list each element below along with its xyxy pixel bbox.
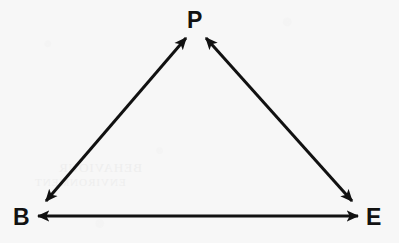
node-label-p: P [187,9,202,32]
diagram-edges [0,0,399,243]
edge-p-e [206,38,352,201]
node-label-e: E [366,206,381,229]
diagram-canvas: BEHAVIOUR ENVIRONMENT P B E [0,0,399,243]
edge-b-p [46,38,186,201]
node-label-b: B [13,206,30,229]
